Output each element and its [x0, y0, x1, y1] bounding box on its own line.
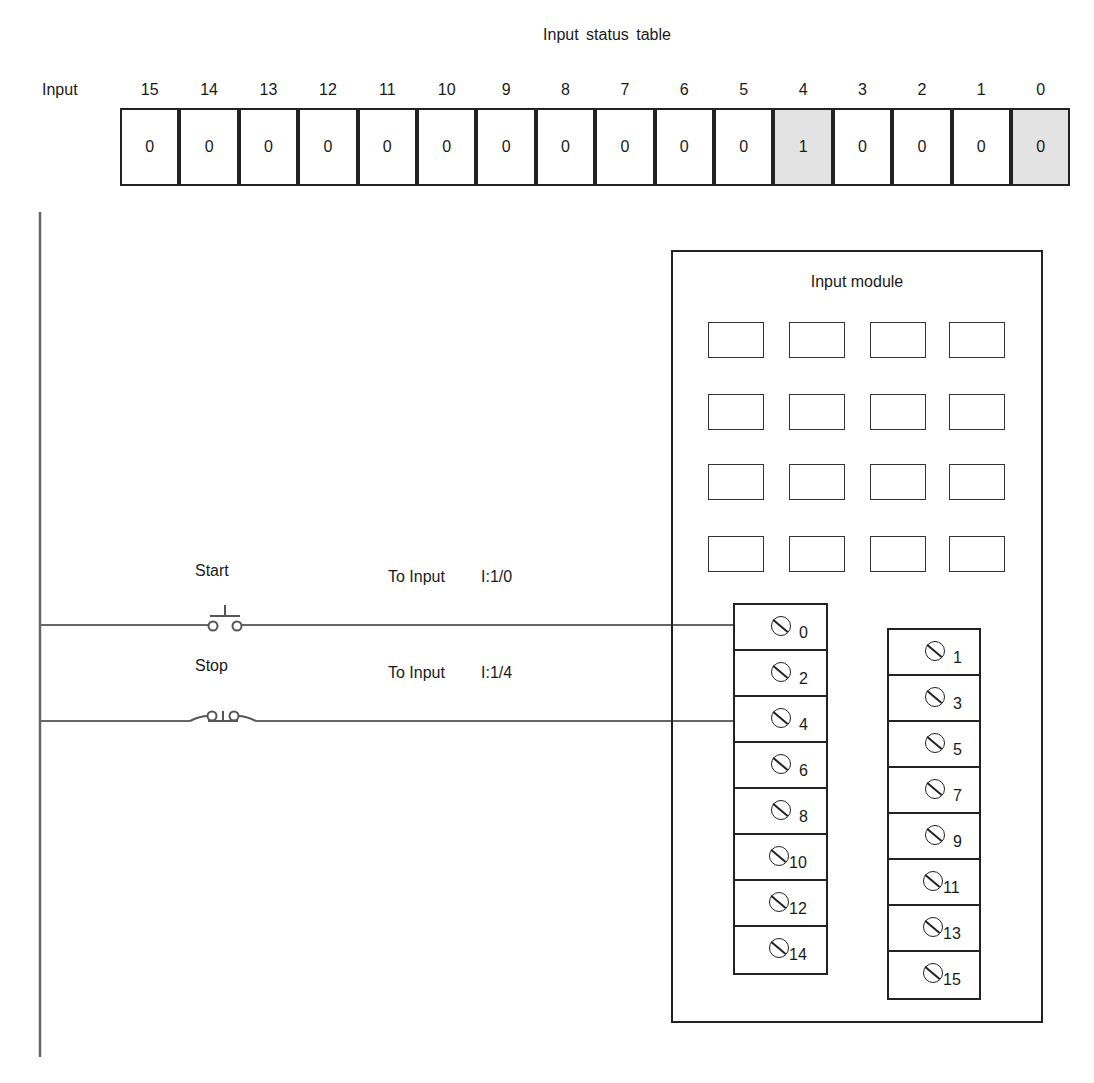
terminal-number: 6: [799, 762, 808, 780]
screw-terminal-icon: [771, 616, 791, 636]
terminal[interactable]: 9: [889, 814, 979, 860]
terminal[interactable]: 7: [889, 768, 979, 814]
terminal[interactable]: 6: [735, 743, 826, 789]
terminal[interactable]: 15: [889, 952, 979, 998]
terminal[interactable]: 3: [889, 676, 979, 722]
terminal-block-left: 02468101214: [733, 603, 828, 975]
screw-terminal-icon: [925, 641, 945, 661]
terminal[interactable]: 14: [735, 927, 826, 973]
indicator-led: [870, 536, 926, 572]
terminal-number: 11: [943, 879, 960, 897]
rung2-to-label: To Input: [388, 664, 445, 682]
indicator-led: [949, 322, 1005, 358]
screw-terminal-icon: [923, 871, 943, 891]
terminal-block-right: 13579111315: [887, 628, 981, 1000]
indicator-led: [870, 394, 926, 430]
input-module-title: Input module: [671, 273, 1043, 291]
indicator-led: [708, 322, 764, 358]
contact-terminal-icon: [230, 712, 239, 721]
terminal-number: 14: [789, 946, 807, 964]
indicator-led: [789, 394, 845, 430]
stop-label: Stop: [195, 657, 228, 675]
terminal-number: 5: [953, 741, 962, 759]
terminal[interactable]: 11: [889, 860, 979, 906]
indicator-led: [949, 536, 1005, 572]
screw-terminal-icon: [925, 687, 945, 707]
rung2-address: I:1/4: [481, 664, 512, 682]
terminal-number: 12: [789, 900, 807, 918]
screw-terminal-icon: [925, 825, 945, 845]
screw-terminal-icon: [771, 708, 791, 728]
start-label: Start: [195, 562, 229, 580]
indicator-led: [708, 394, 764, 430]
terminal-number: 10: [789, 854, 807, 872]
screw-terminal-icon: [771, 754, 791, 774]
terminal[interactable]: 8: [735, 789, 826, 835]
indicator-led: [949, 394, 1005, 430]
terminal[interactable]: 2: [735, 651, 826, 697]
indicator-led: [789, 322, 845, 358]
indicator-led: [708, 536, 764, 572]
screw-terminal-icon: [771, 662, 791, 682]
indicator-led: [708, 464, 764, 500]
indicator-led: [870, 322, 926, 358]
terminal[interactable]: 10: [735, 835, 826, 881]
indicator-led: [949, 464, 1005, 500]
terminal-number: 1: [953, 649, 962, 667]
terminal-number: 7: [953, 787, 962, 805]
indicator-led: [870, 464, 926, 500]
terminal-number: 15: [943, 971, 961, 989]
terminal-number: 4: [799, 716, 808, 734]
indicator-led: [789, 536, 845, 572]
terminal[interactable]: 1: [889, 630, 979, 676]
terminal[interactable]: 5: [889, 722, 979, 768]
screw-terminal-icon: [769, 938, 789, 958]
terminal-number: 13: [943, 925, 961, 943]
contact-terminal-icon: [208, 712, 217, 721]
screw-terminal-icon: [769, 892, 789, 912]
indicator-led: [789, 464, 845, 500]
terminal-number: 0: [799, 624, 808, 642]
input-module: [671, 250, 1043, 1023]
terminal[interactable]: 12: [735, 881, 826, 927]
terminal[interactable]: 4: [735, 697, 826, 743]
rung1-to-label: To Input: [388, 568, 445, 586]
screw-terminal-icon: [923, 963, 943, 983]
screw-terminal-icon: [923, 917, 943, 937]
terminal-number: 9: [953, 833, 962, 851]
terminal[interactable]: 0: [735, 605, 826, 651]
terminal-number: 3: [953, 695, 962, 713]
contact-terminal-icon: [233, 622, 242, 631]
screw-terminal-icon: [771, 800, 791, 820]
terminal-number: 2: [799, 670, 808, 688]
screw-terminal-icon: [925, 733, 945, 753]
rung1-address: I:1/0: [481, 568, 512, 586]
screw-terminal-icon: [769, 846, 789, 866]
contact-terminal-icon: [209, 622, 218, 631]
terminal-number: 8: [799, 808, 808, 826]
screw-terminal-icon: [925, 779, 945, 799]
terminal[interactable]: 13: [889, 906, 979, 952]
